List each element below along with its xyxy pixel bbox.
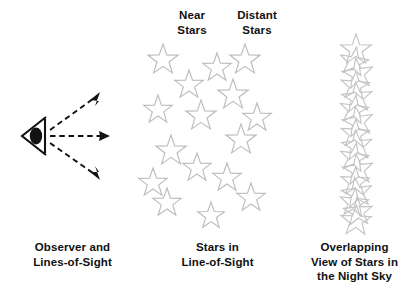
star-icon — [218, 79, 248, 108]
starfield-graphic — [145, 0, 290, 240]
observer-eye-group — [22, 117, 46, 155]
overlap-caption: OverlappingView of Stars inthe Night Sky — [290, 240, 419, 284]
star-icon — [156, 135, 186, 164]
overlap-graphic — [290, 0, 419, 240]
observer-panel: Observer andLines-of-Sight — [0, 0, 145, 297]
star-icon — [183, 153, 212, 180]
observer-graphic — [0, 0, 145, 240]
observer-caption: Observer andLines-of-Sight — [0, 240, 145, 269]
star-icon — [230, 44, 260, 73]
star-icon — [186, 100, 216, 129]
lines-of-sight-group — [50, 92, 110, 180]
upper-arrowhead-icon — [90, 92, 100, 106]
overlap-star-group — [340, 34, 372, 234]
starfield-panel: NearStars DistantStars Stars inLine-of-S… — [145, 0, 290, 297]
star-icon — [237, 183, 266, 210]
star-icon — [213, 163, 242, 190]
star-icon — [203, 53, 232, 80]
starfield-caption: Stars inLine-of-Sight — [145, 240, 290, 269]
star-icon — [148, 44, 178, 73]
star-icon — [198, 202, 225, 227]
overlap-panel: OverlappingView of Stars inthe Night Sky — [290, 0, 419, 297]
eye-pupil-icon — [30, 128, 42, 145]
starfield-star-group — [139, 44, 272, 227]
upper-line-of-sight — [50, 99, 93, 130]
star-icon — [144, 95, 173, 122]
middle-arrowhead-icon — [99, 131, 110, 141]
lower-arrowhead-icon — [90, 166, 100, 180]
lower-line-of-sight — [50, 143, 93, 173]
star-icon — [243, 103, 272, 130]
diagram-canvas: Observer andLines-of-Sight NearStars Dis… — [0, 0, 419, 297]
star-icon — [175, 70, 204, 97]
